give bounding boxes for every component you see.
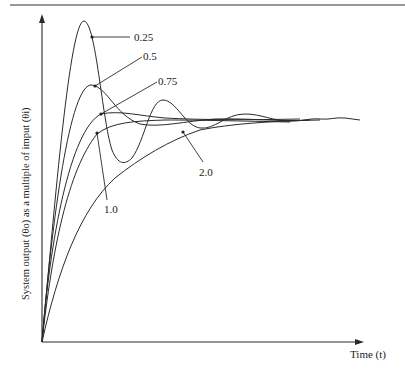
label-0.25: 0.25 [134,31,154,43]
axes [39,14,364,345]
curve-0.5 [42,85,310,342]
y-axis-arrow-icon [39,14,45,23]
curves [42,21,360,342]
label-2.0: 2.0 [199,166,213,178]
curve-0.25 [42,21,360,342]
label-1.0: 1.0 [104,203,118,215]
label-0.5: 0.5 [143,50,157,62]
curve-0.75 [42,113,300,342]
x-axis-label: Time (t) [350,348,386,361]
y-axis-label: System output (θo) as a multiple of impu… [20,107,32,300]
step-response-chart: Time (t) System output (θo) as a multipl… [0,0,405,372]
curve-1.0 [42,120,290,342]
label-0.75: 0.75 [158,75,178,87]
curve-2.0 [42,120,320,342]
x-axis-arrow-icon [355,339,364,345]
